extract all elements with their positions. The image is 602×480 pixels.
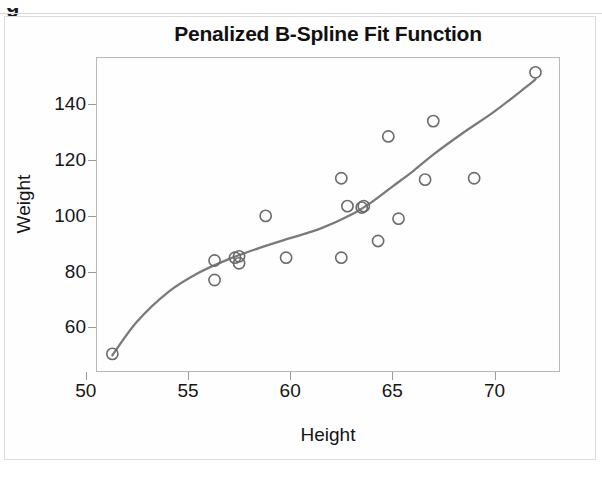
y-tick-label: 60: [30, 316, 86, 338]
x-tick-mark: [86, 372, 87, 380]
x-tick-label: 55: [153, 380, 223, 402]
x-tick-mark: [290, 372, 291, 380]
plot-frame: [96, 57, 560, 372]
y-tick-mark: [88, 104, 96, 105]
x-axis-title: Height: [96, 424, 560, 446]
y-axis-title: Weight: [13, 144, 35, 264]
y-tick-mark: [88, 272, 96, 273]
x-tick-mark: [188, 372, 189, 380]
penalized-b-spline-chart: Penalized B-Spline Fit Function 60801001…: [0, 0, 602, 480]
y-tick-label: 100: [30, 205, 86, 227]
x-tick-label: 65: [357, 380, 427, 402]
x-tick-mark: [392, 372, 393, 380]
y-tick-label: 140: [30, 93, 86, 115]
y-tick-mark: [88, 216, 96, 217]
x-tick-label: 50: [51, 380, 121, 402]
y-tick-mark: [88, 327, 96, 328]
y-tick-mark: [88, 160, 96, 161]
x-tick-mark: [495, 372, 496, 380]
x-tick-label: 60: [255, 380, 325, 402]
y-tick-label: 80: [30, 261, 86, 283]
x-tick-label: 70: [460, 380, 530, 402]
chart-title: Penalized B-Spline Fit Function: [96, 22, 560, 46]
y-tick-label: 120: [30, 149, 86, 171]
